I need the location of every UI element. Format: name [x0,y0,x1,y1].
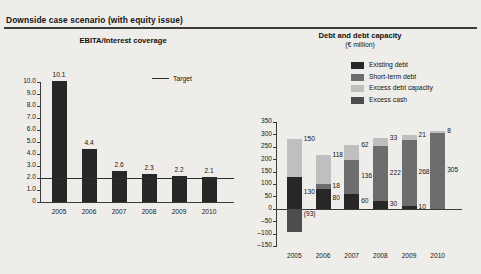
right-chart-tick-label: –150 [242,242,272,249]
value-label-2006-2: 118 [333,152,344,159]
value-label-2009-1: 268 [419,169,430,176]
bar-ebita-2009 [172,176,187,202]
left-chart-x-axis [40,202,234,203]
debt-and-debt-capacity-chart: –150–100–50050100150200250300350130150(9… [240,0,481,274]
bar-value-2007: 2.6 [107,162,131,169]
value-label-2005-cash: (93) [304,211,316,218]
bar-value-2005: 10.1 [47,72,71,79]
bar-value-2010: 2.1 [197,168,221,175]
left-chart-tick-label: 5.0 [4,138,36,145]
right-chart-tick [273,172,277,173]
bar-existing-debt-2006 [316,189,331,209]
left-chart-tick [37,154,41,155]
right-chart-tick-label: –50 [242,218,272,225]
bar-excess-debt-capacity-2007 [344,145,359,160]
bar-excess-debt-capacity-2010 [430,131,445,133]
right-chart-tick [273,184,277,185]
value-label-2006-1: 18 [333,183,340,190]
right-chart-tick [273,221,277,222]
right-chart-tick [273,234,277,235]
target-threshold-line [40,178,234,179]
left-chart-tick [37,82,41,83]
value-label-2006-0: 80 [333,195,340,202]
right-chart-tick [273,209,277,210]
right-chart-tick-label: 100 [242,180,272,187]
value-label-2007-2: 62 [361,142,368,149]
right-chart-tick [273,122,277,123]
x-axis-label-2009: 2009 [163,209,195,216]
bar-short-term-debt-2006 [316,184,331,188]
right-chart-tick-label: 300 [242,131,272,138]
left-chart-tick [37,106,41,107]
bar-ebita-2005 [52,81,67,202]
x-axis-label-2010: 2010 [193,209,225,216]
left-chart-tick [37,118,41,119]
bar-ebita-2006 [82,149,97,202]
right-chart-tick [273,159,277,160]
right-chart-tick-label: 0 [242,205,272,212]
right-chart-tick [273,147,277,148]
x-axis-label-2007: 2007 [103,209,135,216]
value-label-2007-0: 60 [361,198,368,205]
x-axis-label-2008: 2008 [364,253,396,260]
x-axis-label-2005: 2005 [278,253,310,260]
left-chart-tick [37,142,41,143]
bar-excess-debt-capacity-2006 [316,155,331,184]
left-chart-tick [37,130,41,131]
x-axis-label-2006: 2006 [73,209,105,216]
left-chart-tick [37,94,41,95]
left-chart-tick-label: 2.0 [4,174,36,181]
right-chart-tick-label: –100 [242,230,272,237]
bar-value-2006: 4.4 [77,140,101,147]
right-chart-tick-label: 350 [242,118,272,125]
right-chart-tick [273,246,277,247]
bar-excess-cash-2005 [287,209,302,232]
value-label-2009-0: 10 [419,204,426,211]
bar-value-2009: 2.2 [167,167,191,174]
value-label-2008-0: 30 [390,201,397,208]
left-chart-tick-label: 6.0 [4,126,36,133]
value-label-2008-2: 33 [390,135,397,142]
value-label-2008-1: 222 [390,170,401,177]
bar-short-term-debt-2009 [402,140,417,206]
ebita-interest-coverage-chart: 01.02.03.04.05.06.07.08.09.010.010.12005… [0,0,240,274]
bar-ebita-2007 [112,171,127,202]
value-label-2009-2: 21 [419,132,426,139]
bar-existing-debt-2008 [373,201,388,208]
left-chart-tick-label: 8.0 [4,102,36,109]
bar-excess-debt-capacity-2008 [373,138,388,146]
right-chart-tick-label: 50 [242,193,272,200]
left-chart-tick-label: 9.0 [4,90,36,97]
bar-existing-debt-2009 [402,206,417,208]
x-axis-label-2005: 2005 [43,209,75,216]
right-chart-tick-label: 250 [242,143,272,150]
bar-short-term-debt-2010 [430,133,445,209]
left-chart-tick-label: 10.0 [4,78,36,85]
right-chart-tick [273,134,277,135]
left-chart-tick [37,202,41,203]
left-chart-tick-label: 1.0 [4,186,36,193]
bar-ebita-2010 [202,177,217,202]
left-chart-tick [37,166,41,167]
left-chart-tick-label: 7.0 [4,114,36,121]
left-chart-tick-label: 3.0 [4,162,36,169]
bar-excess-debt-capacity-2005 [287,139,302,176]
bar-value-2008: 2.3 [137,165,161,172]
value-label-2010-2: 8 [447,128,451,135]
left-chart-tick-label: 0 [4,198,36,205]
value-label-2005-0: 130 [304,189,315,196]
x-axis-label-2006: 2006 [307,253,339,260]
bar-excess-debt-capacity-2009 [402,135,417,140]
right-chart-tick-label: 150 [242,168,272,175]
left-chart-tick-label: 4.0 [4,150,36,157]
left-chart-tick [37,190,41,191]
x-axis-label-2010: 2010 [422,253,454,260]
exhibit-page: Downside case scenario (with equity issu… [0,0,481,274]
x-axis-label-2008: 2008 [133,209,165,216]
bar-short-term-debt-2007 [344,160,359,194]
value-label-2010-1: 305 [447,167,458,174]
x-axis-label-2009: 2009 [393,253,425,260]
value-label-2007-1: 136 [361,173,372,180]
x-axis-label-2007: 2007 [336,253,368,260]
bar-short-term-debt-2008 [373,146,388,201]
